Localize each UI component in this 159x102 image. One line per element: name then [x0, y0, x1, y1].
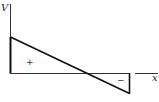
v-axis-label: V	[1, 2, 10, 13]
shear-diagram: V x + −	[0, 0, 159, 102]
positive-sign: +	[26, 57, 34, 67]
negative-sign: −	[117, 75, 125, 85]
x-axis-label: x	[152, 72, 158, 83]
